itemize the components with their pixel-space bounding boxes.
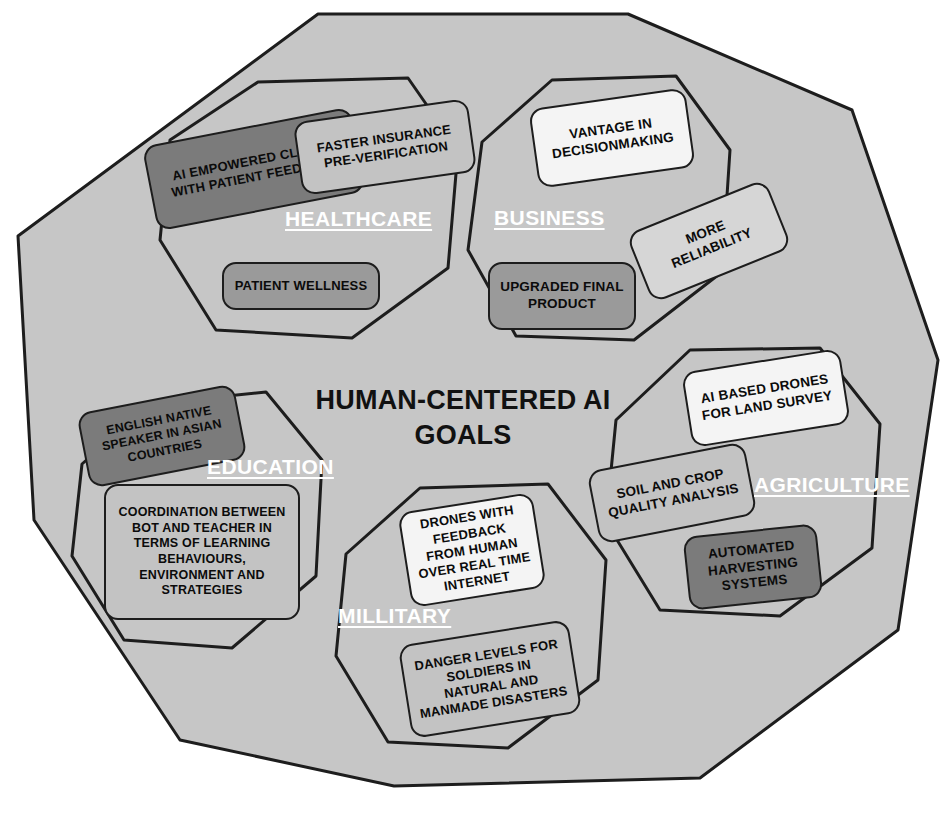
section-label-text: BUSINESS [494, 206, 605, 229]
note-text: UPGRADED FINAL PRODUCT [498, 279, 626, 313]
note-text: SOIL AND CROP QUALITY ANALYSIS [600, 463, 744, 523]
title-line-2: GOALS [288, 418, 638, 453]
section-label-text: MILLITARY [338, 604, 451, 627]
note-text: COORDINATION BETWEEN BOT AND TEACHER IN … [114, 505, 290, 599]
section-label-education: EDUCATION [207, 455, 334, 479]
note-text: VANTAGE IN DECISIONMAKING [541, 112, 682, 165]
note-coordination-bot-teacher[interactable]: COORDINATION BETWEEN BOT AND TEACHER IN … [104, 484, 300, 620]
note-text: DANGER LEVELS FOR SOLDIERS IN NATURAL AN… [410, 635, 570, 723]
note-text: FASTER INSURANCE PRE-VERIFICATION [305, 120, 464, 174]
note-text: DRONES WITH FEEDBACK FROM HUMAN OVER REA… [408, 501, 535, 599]
title-line-1: HUMAN-CENTERED AI [316, 385, 611, 415]
note-upgraded-final-product[interactable]: UPGRADED FINAL PRODUCT [488, 262, 636, 330]
section-label-agriculture: AGRICULTURE [754, 473, 910, 497]
note-text: AUTOMATED HARVESTING SYSTEMS [694, 536, 813, 598]
note-text: PATIENT WELLNESS [232, 278, 370, 294]
section-label-business: BUSINESS [494, 206, 605, 230]
note-automated-harvesting[interactable]: AUTOMATED HARVESTING SYSTEMS [682, 523, 823, 611]
section-label-text: EDUCATION [207, 455, 334, 478]
page-title: HUMAN-CENTERED AI GOALS [288, 383, 638, 452]
section-label-text: HEALTHCARE [285, 207, 432, 230]
diagram-canvas: HUMAN-CENTERED AI GOALS AI EMPOWERED CLI… [0, 0, 944, 815]
section-label-millitary: MILLITARY [338, 604, 451, 628]
note-patient-wellness[interactable]: PATIENT WELLNESS [222, 262, 380, 310]
section-label-healthcare: HEALTHCARE [285, 207, 432, 231]
note-text: AI BASED DRONES FOR LAND SURVEY [694, 370, 838, 425]
section-label-text: AGRICULTURE [754, 473, 910, 496]
